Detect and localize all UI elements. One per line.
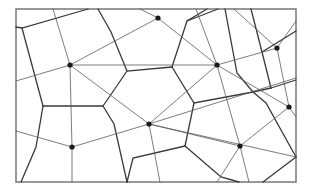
site-point <box>286 104 291 109</box>
site-point <box>146 121 151 126</box>
delaunay-edge <box>53 9 70 65</box>
site-point <box>69 144 74 149</box>
voronoi-edge <box>185 103 194 146</box>
site-point <box>237 143 242 148</box>
voronoi-edge <box>172 67 271 103</box>
delaunay-edges <box>16 9 296 182</box>
voronoi-edge <box>263 157 296 182</box>
voronoi-edge <box>22 28 43 106</box>
voronoi-edge <box>98 9 127 71</box>
voronoi-edge <box>187 9 218 21</box>
delaunay-edge <box>149 124 160 182</box>
delaunay-edge <box>70 18 158 65</box>
delaunay-edge <box>277 21 296 48</box>
delaunay-edge <box>240 146 249 182</box>
delaunay-edge <box>16 131 72 147</box>
voronoi-edge <box>127 146 185 182</box>
voronoi-edge <box>185 146 239 182</box>
delaunay-edge <box>240 107 289 146</box>
bounding-frame <box>16 9 296 182</box>
voronoi-edge <box>16 9 88 28</box>
delaunay-edge <box>149 124 296 157</box>
delaunay-edge <box>217 146 240 182</box>
delaunay-edge <box>140 9 158 18</box>
delaunay-edge <box>70 65 149 124</box>
site-point <box>67 62 72 67</box>
site-point <box>214 62 219 67</box>
delaunay-edge <box>217 48 277 65</box>
delaunay-edge <box>277 48 289 107</box>
delaunay-edge <box>149 65 217 124</box>
voronoi-edge <box>253 92 296 157</box>
voronoi-edges <box>16 9 296 182</box>
voronoi-diagram <box>0 0 309 194</box>
delaunay-edge <box>72 124 149 147</box>
delaunay-edge <box>217 65 240 146</box>
voronoi-edge <box>225 9 253 92</box>
delaunay-edge <box>16 65 70 81</box>
delaunay-edge <box>234 9 277 48</box>
site-point <box>274 45 279 50</box>
site-point <box>155 15 160 20</box>
voronoi-edge <box>172 9 207 67</box>
voronoi-edge <box>103 67 172 106</box>
voronoi-edge <box>21 106 43 182</box>
voronoi-edge <box>103 106 127 182</box>
